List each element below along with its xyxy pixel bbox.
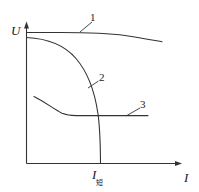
short-circuit-current-label: I短 [92, 168, 103, 185]
y-axis-label: U [11, 24, 20, 37]
volt-ampere-characteristic-figure: U I I短 1 2 3 [0, 0, 199, 192]
figure-canvas [0, 0, 199, 192]
y-axis-arrow-icon [24, 22, 29, 29]
x-axis-label: I [184, 171, 188, 184]
axes-group [24, 22, 182, 167]
curve-label-3: 3 [140, 99, 146, 110]
leader-line-label-3 [126, 108, 140, 116]
curve-label-1: 1 [90, 12, 96, 23]
x-axis-arrow-icon [175, 161, 182, 166]
curve-2-path [27, 38, 101, 164]
short-circuit-current-subscript: 短 [96, 179, 103, 187]
curve-label-2: 2 [99, 72, 105, 83]
leader-line-label-1 [80, 22, 92, 32]
